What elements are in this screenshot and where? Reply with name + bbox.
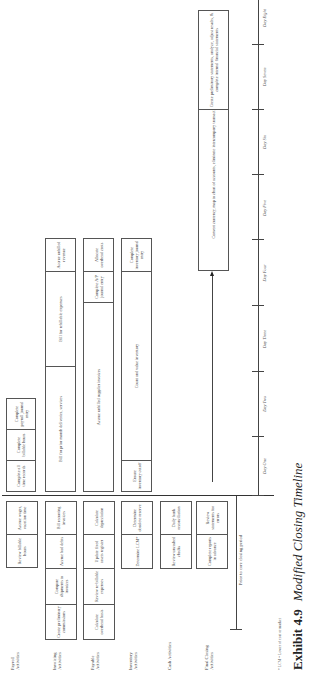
day-tick (252, 109, 264, 110)
final-closing-arrow-line (212, 274, 213, 482)
task-accrue-unbilled-revenue: Accrue unbilled revenue (45, 238, 76, 272)
task-ensure-inventory-cutoff: Ensure inventory cutoff (121, 460, 152, 492)
row-label-inventory: Inventory Activities (128, 640, 138, 670)
task-complete-ap-entry: Complete A/P journal entry (83, 271, 114, 303)
row-label-cash: Cash Activities (167, 640, 172, 670)
task-complete-inventory-entry: Complete inventory journal entry (121, 238, 152, 272)
day-label: Day Six (262, 122, 267, 162)
task-calculate-depreciation: Calculate depreciation (83, 501, 115, 535)
task-complete-time-records: Complete all time records (6, 460, 36, 492)
task-review-statements: Review statements for errors (196, 501, 228, 535)
exhibit-caption: Exhibit 4.9Modified Closing Timeline (290, 463, 306, 670)
task-determine-obsolete-reserve: Determine obsolete reserve (121, 501, 153, 535)
task-review-uncashed-checks: Review uncashed checks (160, 534, 192, 569)
row-label-payroll: Payroll Activities (10, 640, 20, 670)
footnote: * LCM = Lower of cost or market (278, 618, 282, 670)
task-review-billable-hours: Review billable hours (6, 534, 38, 568)
task-create-preliminary-statements: Create preliminary statements, analyze, … (198, 10, 229, 110)
day-label: Day Four (262, 253, 267, 293)
closing-timeline-exhibit: Payroll Activities Invoicing Activities … (0, 0, 309, 680)
day-label: Day Two (262, 384, 267, 424)
day-label: Day One (262, 446, 267, 486)
day-tick (252, 436, 264, 437)
task-accrue-unbilled-supplier-invoices: Accrue unbilled supplier invoices (83, 302, 114, 492)
row-label-final-closing: Final Closing Activities (204, 640, 214, 670)
day-tick (252, 305, 264, 306)
task-allocate-overhead: Allocate overhead costs (83, 238, 114, 272)
task-update-fixed-assets: Update fixed assets register (83, 534, 115, 569)
arrowhead-icon (210, 271, 214, 276)
task-create-preliminary-commissions: Create preliminary commissions (45, 604, 77, 640)
exhibit-title: Modified Closing Timeline (290, 463, 305, 602)
row-label-invoicing: Invoicing Activities (52, 640, 62, 670)
prior-period-line (236, 496, 237, 630)
task-complete-reports-in-advance: Complete reports in advance (196, 534, 228, 569)
day-label: Day Eight (262, 0, 267, 38)
day-axis-line (258, 0, 259, 496)
day-label: Day Three (262, 319, 267, 359)
exhibit-number: Exhibit 4.9 (290, 609, 305, 670)
task-compare-shipments: Compare shipments to invoices (45, 568, 77, 605)
day-label: Day Five (262, 188, 267, 228)
task-complete-payroll-entry: Complete payroll journal entry (6, 398, 36, 430)
task-complete-billable-hours: Complete billable hours (6, 429, 36, 461)
row-label-payable: Payable Activities (90, 640, 100, 670)
day-tick (252, 239, 264, 240)
day-label: Day Seven (262, 57, 267, 97)
day-tick (252, 174, 264, 175)
task-accrue-wages: Accrue wages, vacation time (6, 501, 38, 535)
core-period-divider (2, 495, 274, 496)
task-accrue-bad-debts: Accrue bad debts (45, 534, 77, 569)
task-bill-recurring-invoices: Bill recurring invoices (45, 501, 77, 535)
task-determine-lcm: Determine LCM* (121, 534, 153, 569)
day-tick (252, 44, 264, 45)
day-tick (252, 495, 264, 496)
task-calculate-overhead-basis: Calculate overhead basis (83, 604, 115, 640)
task-count-value-inventory: Count and value inventory (121, 271, 152, 461)
task-bill-rebillable: Bill for rebillable expenses (45, 271, 76, 367)
task-review-rebillable-expenses: Review re-billable expenses (83, 568, 115, 605)
task-bill-prior-month: Bill for prior month deliveries, service… (45, 366, 76, 492)
day-tick (252, 371, 264, 372)
task-daily-bank-reconciliation: Daily bank reconciliation (160, 501, 192, 535)
prior-period-label: Prior to core closing period (238, 520, 243, 600)
